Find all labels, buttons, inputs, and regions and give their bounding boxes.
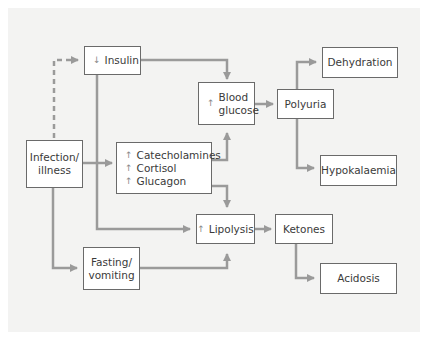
hormone-label: Cortisol bbox=[137, 162, 177, 175]
ketones-label: Ketones bbox=[283, 223, 325, 236]
infection-line2: illness bbox=[30, 164, 79, 177]
arrow-up-icon: ↑ bbox=[207, 97, 215, 110]
hormone-item-cortisol: ↑Cortisol bbox=[125, 162, 221, 175]
hypokalaemia-label: Hypokalaemia bbox=[321, 164, 396, 177]
infection-line1: Infection/ bbox=[30, 151, 79, 164]
node-acidosis: Acidosis bbox=[320, 263, 397, 294]
node-fasting: Fasting/ vomiting bbox=[83, 247, 140, 290]
edge-infection-insulin bbox=[54, 60, 78, 138]
node-hypokalaemia: Hypokalaemia bbox=[320, 155, 397, 186]
edge-polyuria-hypokalaemia bbox=[297, 118, 314, 168]
fasting-line1: Fasting/ bbox=[88, 256, 134, 269]
hormone-item-catecholamines: ↑Catecholamines bbox=[125, 149, 221, 162]
node-polyuria: Polyuria bbox=[277, 89, 334, 119]
insulin-label: Insulin bbox=[105, 54, 139, 67]
hormone-item-glucagon: ↑Glucagon bbox=[125, 175, 221, 188]
node-infection: Infection/ illness bbox=[26, 140, 83, 188]
node-blood-glucose: ↑ Blood glucose bbox=[198, 82, 255, 125]
hormone-label: Catecholamines bbox=[137, 149, 221, 162]
arrow-up-icon: ↑ bbox=[125, 162, 133, 175]
edge-hormones-lipolysis bbox=[212, 186, 227, 207]
glucose-line1: Blood bbox=[219, 91, 259, 104]
arrow-up-icon: ↑ bbox=[197, 223, 205, 236]
edge-polyuria-dehydration bbox=[297, 62, 316, 90]
node-insulin: ↓ Insulin bbox=[84, 46, 141, 75]
lipolysis-label: Lipolysis bbox=[209, 223, 254, 236]
node-hormones: ↑Catecholamines ↑Cortisol ↑Glucagon bbox=[116, 142, 212, 194]
edge-insulin-glucose bbox=[141, 60, 227, 79]
arrow-down-icon: ↓ bbox=[93, 54, 101, 67]
edge-ketones-acidosis bbox=[296, 243, 314, 278]
edge-fasting-lipolysis bbox=[140, 254, 227, 268]
edge-infection-fasting bbox=[53, 188, 77, 268]
hormone-label: Glucagon bbox=[137, 175, 187, 188]
polyuria-label: Polyuria bbox=[285, 98, 327, 111]
node-dehydration: Dehydration bbox=[322, 47, 398, 78]
arrow-up-icon: ↑ bbox=[125, 175, 133, 188]
node-ketones: Ketones bbox=[275, 214, 333, 244]
glucose-line2: glucose bbox=[219, 104, 259, 117]
fasting-line2: vomiting bbox=[88, 269, 134, 282]
dehydration-label: Dehydration bbox=[328, 56, 393, 69]
acidosis-label: Acidosis bbox=[337, 272, 380, 285]
arrow-up-icon: ↑ bbox=[125, 149, 133, 162]
node-lipolysis: ↑ Lipolysis bbox=[196, 214, 255, 244]
